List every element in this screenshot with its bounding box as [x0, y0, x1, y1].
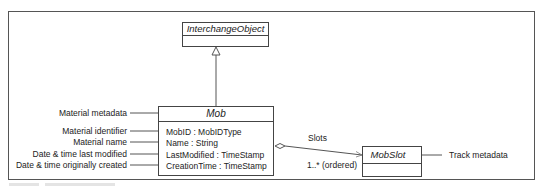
- generalization-arrowhead-icon: [212, 47, 220, 55]
- association-role: Slots: [308, 133, 327, 143]
- annotation-track-metadata: Track metadata: [449, 150, 508, 160]
- annotation-creation-time: Date & time originally created: [16, 160, 127, 170]
- annotation-material-name: Material name: [73, 137, 127, 147]
- class-mob: Mob MobID : MobIDType Name : String Last…: [158, 106, 274, 176]
- attribute-name: Name : String: [166, 138, 218, 148]
- class-interchange-object: InterchangeObject: [182, 22, 269, 47]
- aggregation-line: [285, 146, 362, 155]
- aggregation-diamond-icon: [275, 144, 285, 149]
- class-name: Mob: [159, 107, 273, 122]
- attribute-creationtime: CreationTime : TimeStamp: [166, 161, 267, 171]
- class-name: MobSlot: [363, 147, 421, 164]
- annotation-last-modified: Date & time last modified: [33, 149, 127, 159]
- attribute-lastmodified: LastModified : TimeStamp: [166, 150, 264, 160]
- annotation-material-identifier: Material identifier: [62, 126, 127, 136]
- annotation-material-metadata: Material metadata: [59, 108, 127, 118]
- class-mobslot: MobSlot: [362, 146, 422, 177]
- figure-caption-illegible: [9, 183, 115, 187]
- association-multiplicity: 1..* (ordered): [307, 160, 357, 170]
- class-name: InterchangeObject: [183, 23, 268, 36]
- attribute-mobid: MobID : MobIDType: [166, 127, 242, 137]
